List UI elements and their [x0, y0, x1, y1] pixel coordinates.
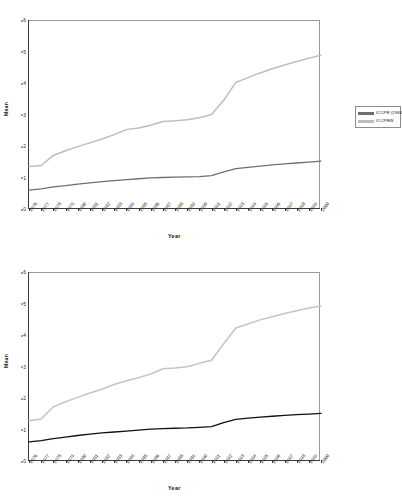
legend-iccpr: ICCPR (1966)ICCPRW [355, 106, 401, 128]
chart-panel-icescr: 0123456197619771978197919801981198219831… [0, 252, 402, 503]
y-axis-title: Mean [3, 102, 9, 116]
x-axis-tick-label: 2000 [321, 202, 331, 213]
y-tick-mark [21, 20, 24, 21]
x-axis-tick-label: 2000 [321, 454, 331, 465]
y-tick-mark [21, 272, 24, 273]
y-tick-mark [21, 461, 24, 462]
y-axis-tick-4: 4 [23, 333, 29, 338]
series-line-iccpr-1966- [29, 161, 321, 190]
y-tick-mark [21, 398, 24, 399]
legend-item[interactable]: ICCPRW [358, 118, 397, 124]
y-tick-mark [21, 83, 24, 84]
y-tick-mark [21, 367, 24, 368]
y-axis-tick-3: 3 [23, 112, 29, 117]
y-axis-title: Mean [3, 354, 9, 368]
series-line-iccprw [29, 55, 321, 166]
x-axis-title: Year [168, 233, 181, 239]
y-axis-tick-4: 4 [23, 81, 29, 86]
legend-label: ICCPR (1966) [376, 111, 402, 115]
series-lines-icescr [29, 272, 321, 461]
y-axis-tick-2: 2 [23, 396, 29, 401]
y-tick-mark [21, 304, 24, 305]
y-tick-mark [21, 52, 24, 53]
y-axis-tick-2: 2 [23, 144, 29, 149]
y-tick-mark [21, 209, 24, 210]
plot-area-iccpr: 0123456197619771978197919801981198219831… [28, 20, 320, 209]
y-axis-tick-5: 5 [23, 49, 29, 54]
y-tick-mark [21, 430, 24, 431]
y-tick-mark [21, 146, 24, 147]
y-axis-tick-6: 6 [23, 18, 29, 23]
legend-item[interactable]: ICCPR (1966) [358, 110, 397, 116]
y-tick-mark [21, 335, 24, 336]
plot-area-icescr: 0123456197619771978197919801981198219831… [28, 272, 320, 461]
y-tick-mark [21, 178, 24, 179]
y-axis-tick-1: 1 [23, 175, 29, 180]
series-line-icescr-1966- [29, 413, 321, 441]
series-line-icescrw [29, 306, 321, 421]
y-axis-tick-5: 5 [23, 301, 29, 306]
y-axis-tick-1: 1 [23, 427, 29, 432]
legend-label: ICCPRW [376, 119, 394, 123]
y-axis-tick-6: 6 [23, 270, 29, 275]
y-tick-mark [21, 115, 24, 116]
legend-swatch [358, 112, 374, 115]
x-axis-title: Year [168, 485, 181, 491]
y-axis-tick-3: 3 [23, 364, 29, 369]
series-lines-iccpr [29, 20, 321, 209]
legend-swatch [358, 120, 374, 123]
chart-panel-iccpr: 0123456197619771978197919801981198219831… [0, 0, 402, 251]
